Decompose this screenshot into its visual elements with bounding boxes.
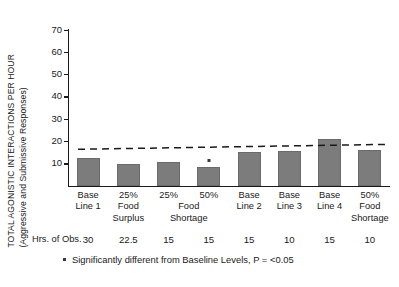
y-tick-label: 30 [51,114,62,124]
x-axis-label: BaseLine 3 [269,190,309,213]
asterisk-icon [63,258,66,261]
bar-column [269,30,309,186]
x-axis-label-line: Base [229,190,269,201]
hours-value: 10 [269,235,309,245]
x-axis-label-line: Base [68,190,108,201]
x-axis-category-labels: BaseLine 125%FoodSurplus25% 50% BaseLine… [68,190,390,232]
bar-column [310,30,350,186]
hours-value: 10 [350,235,390,245]
x-axis-label: BaseLine 1 [68,190,108,213]
bar-column [149,30,189,186]
x-axis-label-line: Food [350,201,390,212]
bar [157,162,180,185]
y-axis-subtitle: (Aggressive and Submissive Responses) [19,18,28,248]
x-axis-label-line: 25% [149,190,189,201]
y-tick-label: 70 [51,25,62,35]
bar [318,139,341,186]
bar-column [189,30,229,186]
bar [77,158,100,186]
x-axis-label-line: 25% [108,190,148,201]
bar [278,151,301,186]
bar-column [108,30,148,186]
y-axis-title-group: TOTAL AGONISTIC INTERACTIONS PER HOUR (A… [2,18,32,248]
y-tick-label: 20 [51,136,62,146]
bar [117,164,140,185]
plot-area: 10203040506070 [68,29,390,187]
x-axis-label-line: Line 4 [310,201,350,212]
x-axis-label-line: Base [269,190,309,201]
x-axis-label: BaseLine 2 [229,190,269,213]
hours-of-observation-values: 3022.5151515101510 [68,235,390,247]
bar [197,167,220,186]
x-axis-label-line: Line 2 [229,201,269,212]
x-axis-label-line: Shortage [350,213,390,224]
bar-column [350,30,390,186]
x-axis-label: 50%FoodShortage [350,190,390,224]
x-axis-label-line: Surplus [108,213,148,224]
x-axis-label-line: Base [310,190,350,201]
hours-value: 15 [229,235,269,245]
bar-column [229,30,269,186]
bar [238,152,261,185]
bar [358,150,381,186]
x-axis-label-line: 50% [189,190,229,201]
y-tick-label: 10 [51,159,62,169]
hours-value: 30 [68,235,108,245]
x-axis-label-line: Food [108,201,148,212]
hours-value: 15 [149,235,189,245]
x-axis-label-line: Line 1 [68,201,108,212]
hours-value: 15 [310,235,350,245]
footnote-text: Significantly different from Baseline Le… [72,255,294,264]
x-axis-label: BaseLine 4 [310,190,350,213]
x-axis-label-line: 50% [350,190,390,201]
y-tick-label: 60 [51,47,62,57]
significance-marker-icon [207,159,210,162]
footnote: Significantly different from Baseline Le… [63,255,294,264]
chart-figure: TOTAL AGONISTIC INTERACTIONS PER HOUR (A… [0,0,399,287]
bar-series [68,30,390,186]
x-axis-line [68,186,390,187]
hours-value: 22.5 [108,235,148,245]
y-tick-label: 50 [51,69,62,79]
x-axis-span-label: Food [149,201,230,212]
x-axis-label-line: Line 3 [269,201,309,212]
x-axis-span-label: Shortage [149,213,230,224]
bar-column [68,30,108,186]
y-tick-label: 40 [51,92,62,102]
hours-value: 15 [189,235,229,245]
x-axis-label: 25%FoodSurplus [108,190,148,224]
y-axis-title: TOTAL AGONISTIC INTERACTIONS PER HOUR [7,18,16,248]
